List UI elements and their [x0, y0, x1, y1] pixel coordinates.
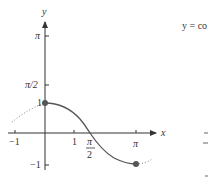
equation-caption: y = co [182, 20, 207, 31]
y-axis-label: y [41, 6, 47, 17]
x-tick-1: 1 [72, 136, 77, 147]
x-tick-pi-over-2-den: 2 [87, 149, 92, 160]
endpoint-end [133, 161, 139, 167]
x-axis-label: x [160, 127, 166, 138]
y-tick-neg1: −1 [30, 159, 41, 170]
x-tick-neg1: −1 [9, 136, 20, 147]
y-tick-pi: π [35, 30, 41, 41]
x-tick-pi: π [133, 138, 139, 149]
y-tick-pi-over-2: π/2 [25, 79, 38, 90]
cosine-graph: x y −1 1 π 2 π π π/2 1 −1 y = co [0, 0, 209, 179]
y-tick-1: 1 [37, 97, 42, 108]
endpoint-start [42, 100, 48, 106]
x-tick-pi-over-2-num: π [87, 136, 93, 147]
cropped-marks [203, 133, 208, 176]
